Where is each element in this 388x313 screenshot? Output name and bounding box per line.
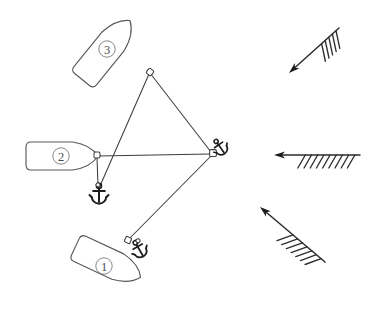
wind-barb-arrow-lower [260,207,325,264]
wind-barb-arrow-middle-feather-3 [335,155,342,168]
vessel-1-anchor-icon-rode-eye [136,239,140,243]
vessel-1-hull [69,234,146,290]
vessel-1-anchor-icon-fluke-2 [145,245,148,248]
wind-barb-arrow-lower-feather-1 [305,259,321,265]
wind-barb-arrow-lower-feather-2 [300,255,316,261]
vessel-2-anchor-icon-fluke-2 [106,195,108,197]
wind-barb-arrow-middle-feather-5 [323,155,330,168]
vessel-2-label-text: 2 [58,150,64,164]
wind-barb-arrow-upper-feather-5 [322,44,326,62]
moored-vessel-diagram: 123 [0,0,388,313]
wind-barb-arrow-upper-feather-1 [336,31,340,49]
line-vessel3-to-anchor2 [100,74,149,186]
wind-barb-arrow-middle [274,151,360,168]
wind-barb-arrow-middle-feather-7 [310,155,317,168]
wind-barb-arrow-lower-feather-3 [296,251,312,257]
wind-barb-arrow-middle-feather-6 [316,155,323,168]
central-mooring-anchor-icon-fluke-2 [225,143,228,146]
wind-barb-arrow-middle-feather-2 [341,155,348,168]
vessel-2-bow-bitt [94,152,100,158]
vessel-2-anchor-icon-rode-eye [96,183,100,187]
wind-barb-arrow-lower-feather-5 [286,243,302,249]
vessel-1[interactable] [69,234,146,290]
wind-barb-arrow-lower-feather-7 [277,235,293,241]
wind-barbs-layer [260,28,360,264]
line-vessel3-to-buoy [150,73,211,152]
diagram-canvas: 123 [0,0,388,313]
vessel-3-label-text: 3 [104,43,110,57]
line-vessel2-to-anchor [97,157,98,186]
wind-barb-arrow-upper-feather-4 [325,40,329,58]
central-mooring-buoy[interactable] [208,135,231,158]
vessel-1-anchor-icon-fluke-1 [132,253,135,256]
wind-barb-arrow-middle-feather-1 [347,155,354,168]
wind-barb-arrow-middle-feather-8 [304,155,311,168]
wind-barb-arrow-upper-feather-3 [329,37,333,55]
wind-barb-arrow-upper-feather-2 [332,34,336,52]
vessel-1-label-text: 1 [101,260,107,274]
line-vessel2-to-buoy [98,154,210,156]
wind-barb-arrow-lower-feather-6 [282,239,298,245]
wind-barb-arrow-upper [289,28,340,73]
wind-barb-arrow-middle-feather-9 [298,155,305,168]
mooring-lines-layer [97,73,211,239]
wind-barb-arrow-middle-feather-4 [329,155,336,168]
vessel-2-anchor-icon-fluke-1 [90,195,92,197]
line-vessel1-to-buoy [129,156,211,239]
vessel-3-bow-bitt [146,68,154,76]
wind-barb-arrow-lower-feather-4 [291,247,307,253]
